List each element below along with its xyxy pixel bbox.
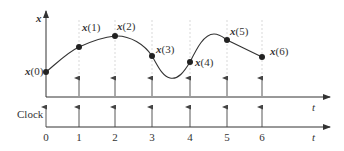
sample-label-3: x(3)	[155, 43, 175, 56]
x-axis-label: x	[35, 12, 42, 24]
sample-point-5	[224, 37, 230, 43]
sample-point-2	[112, 33, 118, 39]
tick-labels: 0 1 2 3 4 5 6	[43, 131, 265, 143]
sample-label-2: x(2)	[116, 20, 136, 33]
sample-point-0	[43, 69, 49, 75]
sample-point-1	[76, 44, 82, 50]
sample-labels: x(0) x(1) x(2) x(3) x(4) x(5) x(6)	[24, 20, 289, 78]
clock-label: Clock	[17, 108, 44, 120]
tick-label-5: 5	[224, 131, 230, 143]
sample-point-4	[187, 59, 193, 65]
sample-label-5: x(5)	[229, 25, 249, 38]
clock-pulses	[46, 107, 262, 127]
tick-label-3: 3	[149, 131, 155, 143]
t-axis-label-clock: t	[312, 131, 316, 143]
sample-point-3	[149, 53, 155, 59]
sample-point-6	[259, 54, 265, 60]
t-axis-label-upper: t	[312, 101, 316, 113]
upper-sample-arrows	[79, 78, 262, 96]
sample-label-4: x(4)	[194, 56, 214, 69]
sampling-diagram: x t Clock t 0 1 2 3 4 5 6 x(0) x(1) x(2)…	[0, 0, 344, 151]
tick-label-4: 4	[187, 131, 193, 143]
tick-label-1: 1	[76, 131, 82, 143]
tick-label-0: 0	[43, 131, 49, 143]
sample-label-6: x(6)	[269, 45, 289, 58]
tick-label-6: 6	[259, 131, 265, 143]
sample-label-0: x(0)	[24, 65, 44, 78]
tick-label-2: 2	[112, 131, 118, 143]
sample-points	[43, 33, 265, 75]
sample-label-1: x(1)	[81, 21, 101, 34]
